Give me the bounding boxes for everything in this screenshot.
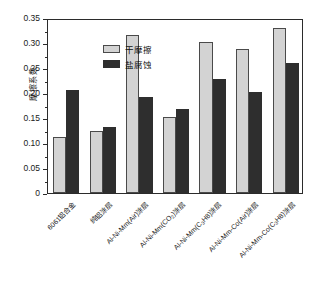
chart-legend: 干摩擦 盐腐蚀: [103, 43, 152, 70]
plot-area: 干摩擦 盐腐蚀: [47, 19, 303, 194]
y-axis-tick-label: 0.20: [23, 88, 40, 98]
bar-salt-corrosion: [286, 63, 299, 193]
legend-item-dry: 干摩擦: [103, 43, 152, 55]
bar-dry-friction: [199, 42, 212, 193]
bar-salt-corrosion: [103, 127, 116, 193]
legend-swatch-salt-corrosion: [103, 60, 120, 68]
bar-salt-corrosion: [66, 90, 79, 193]
bar-salt-corrosion: [176, 109, 189, 193]
y-axis-tick-label: 0.30: [23, 38, 40, 48]
x-axis-tick-mark: [176, 189, 177, 193]
x-axis-tick-mark: [139, 189, 140, 193]
bar-dry-friction: [90, 131, 103, 193]
y-axis-tick-label: 0.35: [23, 13, 40, 23]
x-axis-label: 6061铝合金: [44, 199, 77, 232]
y-axis-tick-label: 0.15: [23, 113, 40, 123]
y-axis-tick-label: 0: [35, 188, 40, 198]
x-axis-tick-mark: [213, 189, 214, 193]
y-axis-tick-label: 0.10: [23, 138, 40, 148]
x-axis-tick-mark: [249, 189, 250, 193]
bar-salt-corrosion: [249, 92, 262, 194]
legend-item-salt: 盐腐蚀: [103, 58, 152, 70]
bar-dry-friction: [53, 137, 66, 193]
bar-salt-corrosion: [139, 97, 152, 193]
x-axis-tick-mark: [66, 189, 67, 193]
bar-chart-figure: 摩擦系数 00.050.100.150.200.250.300.35 干摩擦 盐…: [0, 0, 315, 286]
y-axis-tick-label: 0.05: [23, 163, 40, 173]
bar-dry-friction: [163, 117, 176, 194]
bar-salt-corrosion: [213, 79, 226, 193]
legend-label-dry-friction: 干摩擦: [125, 43, 152, 55]
x-axis-tick-mark: [103, 189, 104, 193]
x-axis-label: 纯铝涂层: [87, 199, 114, 226]
y-axis-tick-mark: [43, 194, 47, 195]
y-axis-title: 摩擦系数: [27, 49, 38, 119]
y-axis-tick-label: 0.25: [23, 63, 40, 73]
bar-dry-friction: [236, 49, 249, 194]
x-axis-tick-mark: [286, 189, 287, 193]
legend-label-salt-corrosion: 盐腐蚀: [125, 58, 152, 70]
legend-swatch-dry-friction: [103, 45, 120, 53]
bar-dry-friction: [273, 28, 286, 193]
